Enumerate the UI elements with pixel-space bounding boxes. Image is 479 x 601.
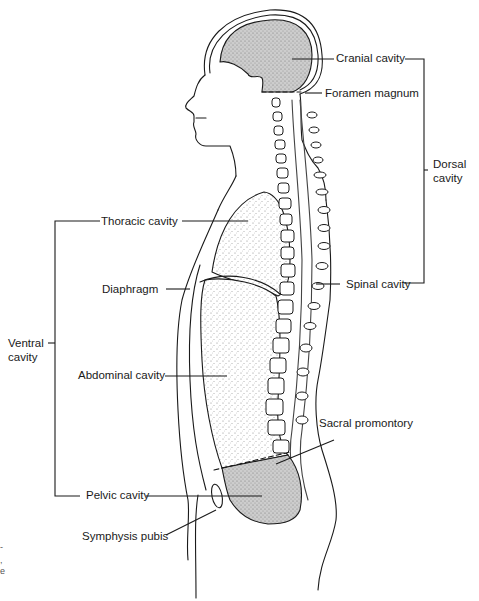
label-symphysis-pubis: Symphysis pubis [82,530,168,543]
cranial-cavity-shape [220,20,312,92]
label-ventral-line1: Ventral [8,336,44,350]
body-cavities-diagram: Cranial cavity Foramen magnum Dorsal cav… [0,0,479,601]
label-cranial-cavity: Cranial cavity [336,52,405,65]
label-pelvic-cavity: Pelvic cavity [86,489,149,502]
label-dorsal-cavity: Dorsal cavity [433,157,466,185]
label-foramen-magnum: Foramen magnum [325,87,419,100]
label-abdominal-cavity: Abdominal cavity [78,369,165,382]
back-outline [316,200,336,590]
label-dorsal-line2: cavity [433,171,466,185]
label-dorsal-line1: Dorsal [433,157,466,171]
label-sacral-promontory: Sacral promontory [319,417,413,430]
edge-fragment-1: - [0,542,3,552]
label-ventral-line2: cavity [8,350,44,364]
label-ventral-cavity: Ventral cavity [8,336,44,364]
label-diaphragm: Diaphragm [102,283,158,296]
edge-fragment-2: , [0,555,3,565]
label-thoracic-cavity: Thoracic cavity [101,215,178,228]
face-profile [186,75,236,176]
label-spinal-cavity: Spinal cavity [346,278,411,291]
edge-fragment-3: e [0,566,5,576]
